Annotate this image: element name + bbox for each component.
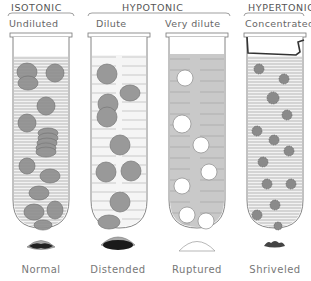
caption-normal: Normal	[1, 264, 81, 275]
group-label-hypertonic: HYPERTONIC	[248, 2, 311, 13]
solution-label-very-dilute: Very dilute	[165, 18, 220, 29]
cell-normal	[27, 241, 55, 250]
group-label-hypotonic: HYPOTONIC	[122, 2, 183, 13]
tube-dilute	[88, 33, 150, 229]
isotonic-bracket	[8, 13, 74, 16]
group-label-isotonic: ISOTONIC	[11, 2, 62, 13]
hypertonic-bracket	[244, 13, 304, 16]
solution-label-concentrated: Concentrated	[245, 18, 311, 29]
cell-distended	[101, 237, 135, 250]
caption-distended: Distended	[78, 264, 158, 275]
tube-very-dilute	[166, 33, 228, 229]
cell-ruptured	[179, 242, 215, 252]
solution-label-undiluted: Undiluted	[9, 18, 59, 29]
tonicity-illustration	[0, 0, 311, 281]
tube-isotonic	[10, 33, 72, 230]
solution-label-dilute: Dilute	[96, 18, 127, 29]
cell-shriveled	[264, 241, 285, 248]
caption-shriveled: Shriveled	[235, 264, 311, 275]
caption-ruptured: Ruptured	[157, 264, 237, 275]
hypotonic-bracket	[88, 13, 230, 16]
tube-concentrated	[244, 33, 306, 230]
